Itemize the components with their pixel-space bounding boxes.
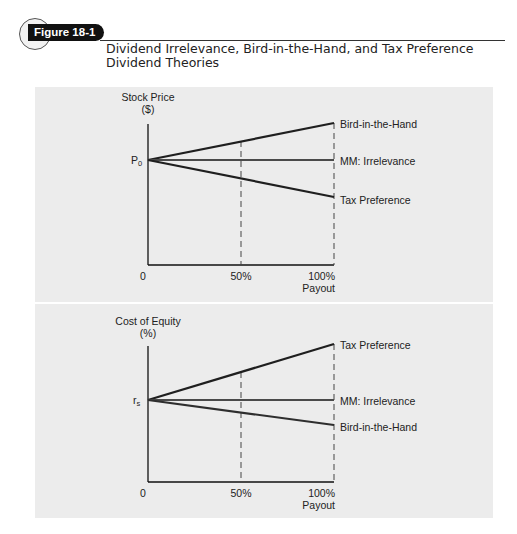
- line-tax-preference: [148, 344, 334, 400]
- x-tick-100: 100%: [308, 270, 335, 282]
- y-axis-unit: (%): [140, 327, 156, 339]
- chart-cost-of-equity: Cost of Equity (%) rs Tax Preference MM:…: [115, 315, 417, 511]
- x-tick-0: 0: [140, 487, 146, 499]
- x-axis-label: Payout: [302, 499, 335, 511]
- series-label-tax: Tax Preference: [340, 194, 411, 206]
- y-axis-label: Cost of Equity: [115, 315, 181, 327]
- y-axis-label: Stock Price: [121, 91, 174, 103]
- x-tick-50: 50%: [230, 487, 251, 499]
- series-label-tax: Tax Preference: [340, 339, 411, 351]
- x-tick-0: 0: [140, 270, 146, 282]
- x-axis-label: Payout: [302, 282, 335, 294]
- y-axis-unit: ($): [142, 103, 155, 115]
- chart-stock-price: Stock Price ($) P0 Bird-in-the-Hand MM: …: [121, 91, 417, 294]
- x-tick-100: 100%: [308, 487, 335, 499]
- series-label-mm: MM: Irrelevance: [340, 395, 415, 407]
- series-label-bird: Bird-in-the-Hand: [340, 421, 417, 433]
- series-label-bird: Bird-in-the-Hand: [340, 118, 417, 130]
- origin-label-p0: P0: [131, 154, 142, 168]
- series-label-mm: MM: Irrelevance: [340, 155, 415, 167]
- origin-label-rs: rs: [133, 394, 141, 408]
- x-tick-50: 50%: [230, 270, 251, 282]
- charts-svg: Stock Price ($) P0 Bird-in-the-Hand MM: …: [0, 0, 517, 534]
